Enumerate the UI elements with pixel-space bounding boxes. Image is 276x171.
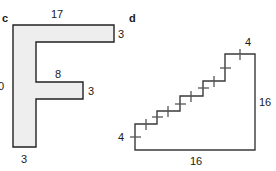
figure-c: c 17 3 0 8 3 3 <box>0 8 124 165</box>
label-right-height: 16 <box>259 96 271 108</box>
label-stem-width: 3 <box>21 153 27 165</box>
label-bottom-left-rise: 4 <box>118 131 124 143</box>
staircase-polygon <box>135 54 255 150</box>
f-shape-polygon <box>13 25 114 147</box>
label-top-step-width: 4 <box>245 36 251 48</box>
figures-canvas: c 17 3 0 8 3 3 d 4 16 <box>0 0 276 171</box>
label-middle-bar-thickness: 3 <box>88 85 94 97</box>
label-left-height: 0 <box>0 80 4 92</box>
label-top-width: 17 <box>51 8 63 20</box>
figure-d: d 4 16 16 4 <box>118 12 271 167</box>
figure-d-letter: d <box>129 12 136 24</box>
label-top-bar-thickness: 3 <box>118 28 124 40</box>
label-bottom-width: 16 <box>190 155 202 167</box>
label-middle-bar-width: 8 <box>55 68 61 80</box>
figure-c-letter: c <box>2 12 8 24</box>
